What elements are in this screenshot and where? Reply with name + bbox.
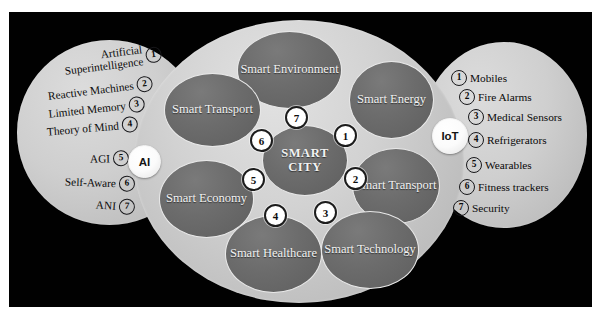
hub-bullet-1[interactable]: 1 — [334, 124, 357, 147]
ai-list-item-6-number: 6 — [119, 175, 136, 192]
hub-bullet-6[interactable]: 6 — [250, 129, 273, 152]
hub-bullet-2-label: 2 — [353, 173, 359, 185]
iot-list-item-3[interactable]: 3 Medical Sensors — [468, 109, 562, 125]
iot-node[interactable]: IoT — [432, 118, 468, 154]
iot-list-item-5-label: Wearables — [485, 159, 532, 171]
node-smart-transport-left-label: Smart Transport — [170, 103, 255, 117]
node-smart-environment-label: Smart Environment — [238, 63, 340, 77]
hub-bullet-5-label: 5 — [251, 174, 257, 186]
ai-list-item-5-label: AGI — [90, 152, 110, 164]
iot-node-label: IoT — [441, 130, 458, 142]
iot-list-item-5-number: 5 — [466, 157, 482, 173]
iot-list-item-4-number: 4 — [468, 132, 484, 148]
ai-list-item-5-number: 5 — [113, 150, 129, 166]
iot-list-item-6-label: Fitness trackers — [478, 181, 549, 193]
hub-bullet-6-label: 6 — [259, 135, 265, 147]
hub-bullet-4-label: 4 — [273, 210, 279, 222]
iot-list-item-4-label: Refrigerators — [487, 134, 547, 146]
iot-list-item-2[interactable]: 2 Fire Alarms — [459, 89, 532, 105]
iot-list-item-1-label: Mobiles — [470, 72, 507, 84]
hub-bullet-5[interactable]: 5 — [242, 168, 265, 191]
diagram-canvas-frame: Smart Environment Smart Energy Smart Tra… — [0, 0, 600, 319]
node-smart-economy-label: Smart Economy — [164, 192, 249, 206]
ai-list-item-5[interactable]: AGI 5 — [33, 150, 129, 168]
ai-list-item-3-number: 3 — [128, 96, 146, 114]
ai-list-item-6-label: Self-Aware — [65, 176, 116, 190]
ai-node-label: AI — [139, 156, 151, 168]
iot-list-item-6[interactable]: 6 Fitness trackers — [459, 179, 549, 195]
ai-list-item-1-number: 1 — [145, 45, 163, 63]
hub-bullet-4[interactable]: 4 — [264, 204, 287, 227]
node-smart-technology-label: Smart Technology — [322, 243, 418, 257]
iot-list-item-7-label: Security — [472, 202, 510, 214]
iot-list-item-1-number: 1 — [451, 70, 467, 86]
node-smart-energy-label: Smart Energy — [355, 93, 428, 107]
ai-list-item-7-number: 7 — [118, 198, 135, 215]
hub-bullet-7[interactable]: 7 — [285, 106, 308, 129]
iot-list-item-7-number: 7 — [453, 200, 469, 216]
iot-list-item-3-number: 3 — [468, 109, 484, 125]
iot-list-item-1[interactable]: 1 Mobiles — [451, 70, 507, 86]
hub-bullet-3[interactable]: 3 — [314, 201, 337, 224]
node-smart-transport-left[interactable]: Smart Transport — [164, 73, 261, 147]
iot-list-item-4[interactable]: 4 Refrigerators — [468, 132, 547, 148]
iot-list-item-5[interactable]: 5 Wearables — [466, 157, 532, 173]
hub-bullet-1-label: 1 — [343, 130, 349, 142]
hub-bullet-3-label: 3 — [323, 207, 329, 219]
node-smart-city-label: SMART CITY — [263, 147, 347, 174]
node-smart-healthcare-label: Smart Healthcare — [228, 247, 319, 261]
iot-list-item-3-label: Medical Sensors — [487, 111, 562, 123]
hub-bullet-2[interactable]: 2 — [344, 167, 367, 190]
node-smart-energy[interactable]: Smart Energy — [349, 61, 434, 139]
iot-list-item-7[interactable]: 7 Security — [453, 200, 510, 216]
diagram-canvas: Smart Environment Smart Energy Smart Tra… — [9, 12, 592, 307]
iot-list-item-2-number: 2 — [459, 89, 475, 105]
hub-bullet-7-label: 7 — [294, 112, 300, 124]
ai-node[interactable]: AI — [128, 145, 161, 178]
iot-list-item-6-number: 6 — [459, 179, 475, 195]
iot-list-item-2-label: Fire Alarms — [478, 91, 532, 103]
ai-list-item-4-number: 4 — [121, 116, 138, 133]
ai-list-item-2-number: 2 — [136, 75, 154, 93]
node-smart-technology[interactable]: Smart Technology — [321, 211, 419, 289]
ai-list-item-7-label: ANI — [95, 199, 116, 212]
